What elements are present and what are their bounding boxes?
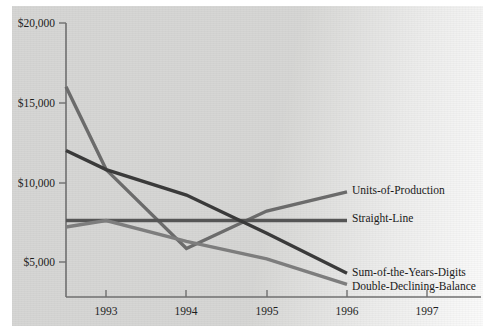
- chart-canvas: $20,000 $15,000 $10,000 $5,000 1993 1994…: [0, 0, 491, 332]
- y-axis-ticks: [59, 23, 66, 262]
- y-tick-label-10000: $10,000: [18, 177, 56, 190]
- series-layer: [66, 87, 347, 285]
- x-tick-label-1994: 1994: [175, 305, 198, 317]
- depreciation-methods-line-chart: $20,000 $15,000 $10,000 $5,000 1993 1994…: [0, 0, 491, 332]
- x-tick-label-1993: 1993: [95, 305, 118, 317]
- x-tick-label-1997: 1997: [416, 305, 439, 317]
- x-tick-label-1995: 1995: [256, 305, 279, 317]
- y-tick-label-15000: $15,000: [18, 97, 56, 110]
- series-label-units-of-production: Units-of-Production: [352, 184, 445, 196]
- series-label-sum-of-the-years-digits: Sum-of-the-Years-Digits: [352, 266, 466, 279]
- series-line-sum-of-the-years-digits: [66, 150, 347, 273]
- series-label-straight-line: Straight-Line: [352, 212, 413, 225]
- series-label-double-declining-balance: Double-Declining-Balance: [352, 280, 476, 293]
- series-line-units-of-production: [66, 87, 347, 249]
- y-tick-label-5000: $5,000: [23, 256, 55, 269]
- x-tick-label-1996: 1996: [336, 305, 359, 317]
- y-tick-label-20000: $20,000: [18, 17, 56, 30]
